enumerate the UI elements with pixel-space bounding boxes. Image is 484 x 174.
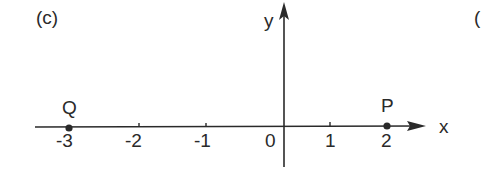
- y-axis-label: y: [264, 11, 274, 30]
- tick-label-minus-3: -3: [56, 131, 73, 150]
- next-panel-label-partial: (: [474, 8, 480, 27]
- tick-label-minus-1: -1: [194, 131, 211, 150]
- tick-label-0: 0: [265, 131, 276, 150]
- x-axis-line: [35, 126, 418, 127]
- point-p-label: P: [381, 96, 394, 115]
- point-p: [383, 122, 390, 129]
- point-q-label: Q: [62, 98, 77, 117]
- tick-label-1: 1: [325, 131, 336, 150]
- x-axis-label: x: [439, 117, 449, 136]
- tick-label-minus-2: -2: [125, 131, 142, 150]
- panel-label: (c): [36, 8, 58, 27]
- tick-label-2: 2: [381, 131, 392, 150]
